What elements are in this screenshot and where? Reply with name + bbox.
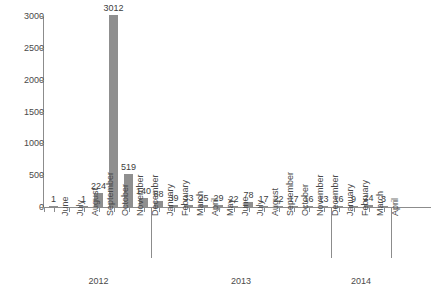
x-axis-month-label-text: March — [373, 191, 388, 216]
bar-slot[interactable]: 17 — [256, 16, 271, 207]
x-tick-mark — [99, 208, 100, 212]
x-tick-mark — [54, 208, 55, 212]
x-axis-month-label-text: March — [193, 191, 208, 216]
y-tick-label: 0 — [10, 203, 44, 212]
bar-slot[interactable]: 3 — [376, 16, 391, 207]
x-tick-mark — [249, 208, 250, 212]
x-tick-mark — [264, 208, 265, 212]
x-tick-mark — [159, 208, 160, 212]
x-axis-month-label-text: October — [298, 184, 313, 216]
year-group-label: 2014 — [351, 276, 371, 286]
year-separator-end — [391, 208, 392, 258]
bar-chart: 050010001500200025003000 112243012519140… — [0, 0, 445, 301]
year-separator — [151, 208, 152, 258]
x-tick-mark — [189, 208, 190, 212]
x-tick-mark — [279, 208, 280, 212]
x-tick-mark — [114, 208, 115, 212]
x-tick-mark — [144, 208, 145, 212]
y-tick-label: 3000 — [10, 12, 44, 21]
x-axis-month-label-text: February — [358, 180, 373, 216]
x-axis-month-label-text: May — [223, 199, 238, 216]
year-group-label: 2012 — [88, 276, 108, 286]
bar-slot[interactable]: 24 — [361, 16, 376, 207]
bar-slot[interactable]: 25 — [196, 16, 211, 207]
x-tick-mark — [69, 208, 70, 212]
x-axis-month-label-text: July — [253, 200, 268, 216]
bar-slot[interactable]: 33 — [181, 16, 196, 207]
x-axis-month-label-text: April — [208, 198, 223, 216]
bar-slot[interactable]: 9 — [346, 16, 361, 207]
bar-slot[interactable] — [61, 16, 76, 207]
x-axis-month-label-text: August — [88, 188, 103, 216]
x-axis-month-label-text: November — [313, 174, 328, 216]
bar-slot[interactable]: 1 — [76, 16, 91, 207]
x-axis-month-label-text: October — [118, 184, 133, 216]
y-tick-label: 500 — [10, 171, 44, 180]
x-axis-month-label-text: June — [238, 196, 253, 216]
year-separator — [331, 208, 332, 258]
bar-value-label: 3012 — [102, 4, 125, 13]
x-axis-month-label-text: August — [268, 188, 283, 216]
x-tick-mark — [204, 208, 205, 212]
x-tick-mark — [384, 208, 385, 212]
year-group-label: 2013 — [231, 276, 251, 286]
x-axis-month-label-text: January — [163, 184, 178, 216]
x-axis-month-label-text: June — [58, 196, 73, 216]
y-tick-label: 2500 — [10, 44, 44, 53]
x-tick-mark — [339, 208, 340, 212]
bar-slot[interactable]: 1 — [46, 16, 61, 207]
x-axis-month-label-text: July — [73, 200, 88, 216]
bar-slot[interactable]: 22 — [226, 16, 241, 207]
x-tick-mark — [294, 208, 295, 212]
x-axis-month-label-text: January — [343, 184, 358, 216]
x-tick-mark — [84, 208, 85, 212]
bar-slot[interactable]: 39 — [166, 16, 181, 207]
y-tick-label: 2000 — [10, 76, 44, 85]
x-axis-month-label-text: February — [178, 180, 193, 216]
x-tick-mark — [369, 208, 370, 212]
bar[interactable] — [49, 206, 58, 207]
x-tick-mark — [309, 208, 310, 212]
x-tick-mark — [129, 208, 130, 212]
x-tick-mark — [354, 208, 355, 212]
x-axis-month-label-text: September — [283, 172, 298, 216]
x-tick-mark — [219, 208, 220, 212]
x-tick-mark-origin — [44, 208, 45, 212]
x-tick-mark — [234, 208, 235, 212]
y-tick-label: 1500 — [10, 108, 44, 117]
x-axis-month-label-text: November — [133, 174, 148, 216]
bar-slot[interactable]: 29 — [211, 16, 226, 207]
x-tick-mark — [174, 208, 175, 212]
y-tick-label: 1000 — [10, 139, 44, 148]
x-tick-mark — [324, 208, 325, 212]
x-axis-month-label-text: September — [103, 172, 118, 216]
bar-slot[interactable]: 78 — [241, 16, 256, 207]
